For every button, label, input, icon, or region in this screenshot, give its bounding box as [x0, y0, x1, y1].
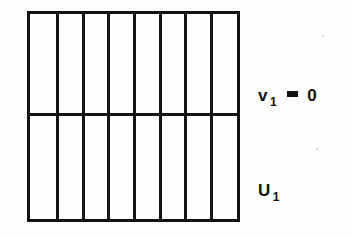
label-u1-subscript: 1 — [273, 190, 280, 204]
scan-speck — [322, 35, 324, 37]
label-v1-equals-zero: v10 — [258, 86, 317, 106]
scan-speck — [316, 148, 318, 150]
vertical-divider — [107, 14, 110, 219]
vertical-divider — [184, 14, 187, 219]
figure-root: v10 U1 — [0, 0, 352, 238]
vertical-divider — [133, 14, 136, 219]
label-v1-subscript: 1 — [270, 95, 277, 109]
vertical-divider — [159, 14, 162, 219]
label-u1-symbol: U — [258, 181, 271, 200]
label-u1: U1 — [258, 181, 278, 201]
horizontal-interface-divider — [30, 113, 237, 116]
label-v1-value: 0 — [307, 86, 317, 105]
domain-rectangle — [27, 11, 240, 222]
vertical-divider — [56, 14, 59, 219]
equals-sign-icon — [287, 91, 298, 97]
vertical-divider — [210, 14, 213, 219]
vertical-divider — [82, 14, 85, 219]
label-v1-symbol: v — [258, 86, 268, 105]
